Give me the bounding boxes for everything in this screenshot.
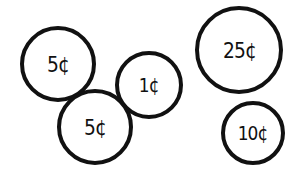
coin-dime: 10¢: [221, 101, 285, 165]
coin-label: 5¢: [47, 52, 69, 77]
coin-quarter: 25¢: [195, 6, 283, 94]
coin-drawing: 5¢ 1¢ 5¢ 25¢ 10¢: [0, 0, 301, 183]
coin-label: 10¢: [238, 121, 268, 145]
coin-label: 1¢: [139, 73, 159, 97]
coin-nickel-bottom: 5¢: [57, 89, 133, 165]
coin-label: 5¢: [84, 115, 106, 140]
coin-label: 25¢: [222, 38, 255, 63]
